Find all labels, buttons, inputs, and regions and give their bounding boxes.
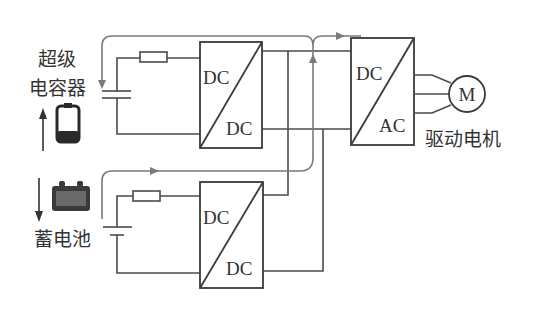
dcdc-bottom-output-label: DC xyxy=(226,258,252,279)
supercap-label-line1: 超级 xyxy=(38,48,76,70)
dcdc-converter-bottom: DC DC xyxy=(200,182,263,288)
dcac-inverter: DC AC xyxy=(351,38,414,145)
dcdc-converter-top: DC DC xyxy=(200,42,262,148)
resistor-bottom xyxy=(133,191,160,201)
flow-arrowhead-to-dcac xyxy=(336,32,345,40)
motor-symbol-label: M xyxy=(459,84,476,105)
motor-caption: 驱动电机 xyxy=(425,128,501,150)
supercapacitor-cell-icon xyxy=(57,103,79,142)
dc-bus-wiring xyxy=(262,51,351,271)
battery-circuit xyxy=(103,191,200,273)
supercap-label-line2: 电容器 xyxy=(29,77,86,99)
battery-label: 蓄电池 xyxy=(34,228,91,250)
motor-phase-wires xyxy=(414,75,451,113)
hybrid-power-diagram: DC DC DC DC DC AC M 驱动电机 超级 电容器 xyxy=(0,0,533,312)
flow-arrowhead-from-battery xyxy=(150,167,159,175)
car-battery-icon xyxy=(52,181,90,211)
up-arrow-icon xyxy=(39,108,47,151)
resistor-top xyxy=(140,52,167,62)
dcdc-top-output-label: DC xyxy=(226,118,252,139)
down-arrow-icon xyxy=(35,178,43,222)
dcdc-top-input-label: DC xyxy=(203,67,229,88)
dcac-output-label: AC xyxy=(379,115,405,136)
dcdc-bottom-input-label: DC xyxy=(203,207,229,228)
supercap-circuit xyxy=(102,52,200,134)
drive-motor: M xyxy=(449,76,485,112)
flow-arrowhead-to-supercap xyxy=(98,80,106,89)
flow-arrowhead-up-bus xyxy=(309,54,317,63)
dcac-input-label: DC xyxy=(356,63,382,84)
